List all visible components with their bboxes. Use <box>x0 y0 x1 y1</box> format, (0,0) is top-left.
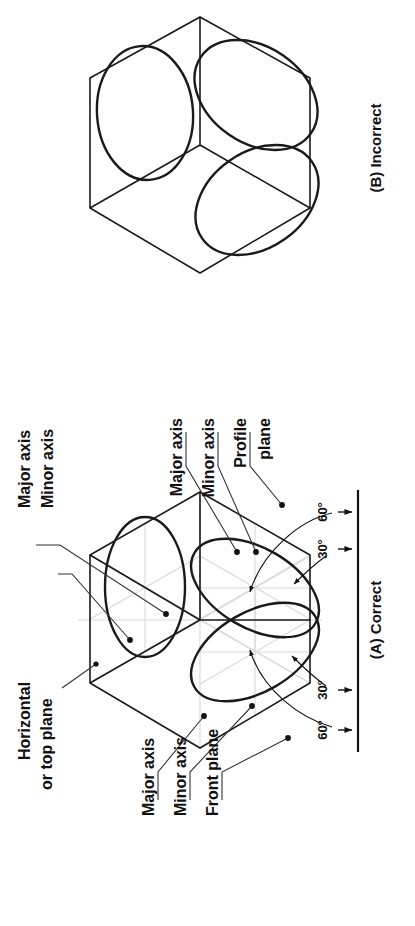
dot-minor-axis-bottom <box>249 703 255 709</box>
angle-label-30-upper: 30° <box>315 539 330 559</box>
dot-front-plane <box>285 735 291 741</box>
label-front-plane: Front plane <box>204 729 221 816</box>
label-horizontal-plane-line1: Horizontal <box>16 682 33 760</box>
figure-root: (B) Incorrect <box>0 0 415 926</box>
dot-profile-plane <box>279 502 285 508</box>
angle-label-30-lower: 30° <box>315 680 330 700</box>
angle-label-60-lower: 60° <box>315 720 330 740</box>
dot-minor-axis-top-right <box>253 549 259 555</box>
angle-label-60-upper: 60° <box>315 502 330 522</box>
dot-major-axis-top-left <box>163 611 169 617</box>
dot-minor-axis-top-left <box>127 637 133 643</box>
panel-a-caption: (A) Correct <box>367 581 384 659</box>
dot-major-axis-top-right <box>234 549 240 555</box>
label-profile-plane-line2: plane <box>256 418 273 460</box>
panel-b-caption-group: (B) Incorrect <box>367 103 384 192</box>
label-minor-axis-top-right: Minor axis <box>200 418 217 497</box>
label-major-axis-bottom: Major axis <box>140 738 157 816</box>
label-horizontal-plane-line2: or top plane <box>38 698 55 790</box>
label-minor-axis-top-left: Minor axis <box>39 429 56 508</box>
label-minor-axis-bottom: Minor axis <box>172 737 189 816</box>
figure-canvas: (B) Incorrect <box>0 0 415 926</box>
label-major-axis-top-left: Major axis <box>16 430 33 508</box>
dot-major-axis-bottom <box>201 713 207 719</box>
dot-horizontal-plane <box>93 661 98 666</box>
label-profile-plane-line1: Profile <box>232 418 249 468</box>
label-major-axis-top-right: Major axis <box>168 418 185 496</box>
panel-b-caption: (B) Incorrect <box>367 103 384 192</box>
